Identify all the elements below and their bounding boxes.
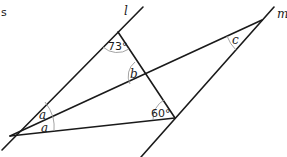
angle-label-c: c — [232, 33, 239, 47]
angle-label-a-upper: a — [39, 108, 46, 122]
line-l-label: l — [124, 4, 128, 18]
angle-label-b: b — [130, 67, 138, 81]
line-a-to-60 — [10, 118, 175, 136]
geometry-diagram: s l m 73° b c 60° a a — [0, 0, 287, 157]
angle-arc-a-upper — [45, 102, 53, 117]
line-m-label: m — [277, 7, 287, 21]
caption-fragment: s — [1, 6, 7, 19]
angle-arc-a-lower — [53, 117, 54, 131]
angle-label-73: 73° — [108, 40, 128, 53]
angle-label-a-lower: a — [41, 121, 48, 135]
line-m — [141, 7, 274, 157]
angle-label-60: 60° — [151, 107, 171, 120]
